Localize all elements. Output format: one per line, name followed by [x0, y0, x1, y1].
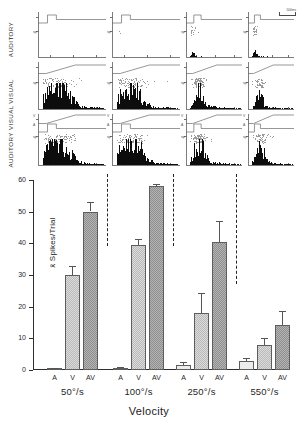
psth-panel: sp	[248, 62, 294, 110]
stimulus-trace	[112, 12, 180, 26]
spike-axis-label: sp	[107, 135, 111, 139]
bar-av-3	[275, 325, 290, 370]
trace-label: V	[243, 114, 245, 118]
bar-v-2	[194, 313, 209, 370]
stimulus-trace: A	[186, 121, 242, 135]
stimulus-trace	[186, 12, 242, 26]
bar-a-3	[239, 361, 254, 370]
error-bar	[282, 311, 283, 325]
condition-label-v: V	[194, 374, 210, 381]
spike-axis-label: sp	[181, 135, 185, 139]
spike-raster	[187, 26, 242, 36]
y-axis-tick-label: 10	[8, 334, 26, 341]
condition-label-a: A	[176, 374, 192, 381]
spike-axis-label: sp	[243, 81, 247, 85]
trace-label: A	[33, 123, 35, 127]
condition-label-av: AV	[275, 374, 291, 381]
spike-axis-label: sp	[33, 135, 37, 139]
bar-v-1	[131, 245, 146, 370]
peristimulus-time-histogram	[39, 139, 106, 165]
error-bar-cap	[69, 266, 76, 267]
y-axis-tick-label: 20	[8, 303, 26, 310]
psth-panel: sp	[112, 12, 180, 58]
bar-av-1	[149, 186, 164, 370]
error-bar-cap	[243, 358, 250, 359]
y-axis-label: x̄ Spikes/Trial	[48, 197, 57, 289]
error-bar-cap	[216, 221, 223, 222]
error-bar-cap	[51, 368, 58, 369]
multisensory-response-figure: AUDITORY VISUAL AUDITORY VISUAL 500ms sp…	[0, 0, 298, 423]
psth-panel: sp	[38, 62, 106, 110]
scale-bar-cap-right	[295, 12, 296, 16]
peristimulus-time-histogram	[187, 139, 242, 165]
trace-label: V	[181, 114, 183, 118]
y-axis-line	[33, 180, 34, 370]
peristimulus-time-histogram	[39, 41, 106, 57]
velocity-label: 250°/s	[172, 386, 232, 397]
error-bar	[72, 266, 73, 275]
stimulus-trace	[38, 12, 106, 26]
condition-label-av: AV	[83, 374, 99, 381]
error-bar	[264, 338, 265, 345]
psth-panel: sp	[186, 62, 242, 110]
psth-panel: VAsp	[248, 114, 294, 166]
trace-label: A	[181, 123, 183, 127]
peristimulus-time-histogram	[113, 139, 180, 165]
trace-label: V	[107, 114, 109, 118]
peristimulus-time-histogram	[249, 83, 294, 109]
stimulus-trace	[112, 62, 180, 76]
stimulus-trace	[248, 62, 294, 76]
peristimulus-time-histogram	[249, 41, 294, 57]
y-axis-tick-label: 40	[8, 239, 26, 246]
error-bar	[90, 202, 91, 211]
peristimulus-time-histogram	[187, 83, 242, 109]
bar-av-0	[83, 212, 98, 370]
spike-axis-label: sp	[181, 81, 185, 85]
stimulus-trace	[186, 62, 242, 76]
bar-a-2	[176, 365, 191, 370]
group-separator	[236, 174, 237, 284]
error-bar-cap	[261, 338, 268, 339]
y-axis-tick	[29, 180, 33, 181]
y-axis-tick	[29, 370, 33, 371]
bar-v-3	[257, 345, 272, 370]
row-label-auditory: AUDITORY	[7, 16, 14, 64]
error-bar-cap	[117, 367, 124, 368]
bar-v-0	[65, 275, 80, 370]
error-bar-cap	[198, 293, 205, 294]
peristimulus-time-histogram	[113, 83, 180, 109]
bar-a-1	[113, 368, 128, 370]
peristimulus-time-histogram	[187, 41, 242, 57]
psth-panel: sp	[38, 12, 106, 58]
bar-av-2	[212, 242, 227, 370]
error-bar	[201, 293, 202, 313]
peristimulus-time-histogram	[113, 41, 180, 57]
spike-raster	[249, 26, 294, 36]
trace-label: V	[33, 114, 35, 118]
condition-label-a: A	[113, 374, 129, 381]
spike-axis-label: sp	[181, 30, 185, 34]
condition-label-v: V	[131, 374, 147, 381]
y-axis-tick-label: 0	[8, 366, 26, 373]
stimulus-trace: A	[38, 121, 106, 135]
trace-label: A	[243, 123, 245, 127]
y-axis-tick-label: 50	[8, 208, 26, 215]
y-axis-tick	[29, 307, 33, 308]
error-bar	[219, 221, 220, 242]
error-bar-cap	[279, 311, 286, 312]
condition-label-av: AV	[149, 374, 165, 381]
error-bar-cap	[180, 362, 187, 363]
y-axis-tick	[29, 275, 33, 276]
psth-panel: VAsp	[186, 114, 242, 166]
psth-panel: VAsp	[112, 114, 180, 166]
velocity-label: 550°/s	[235, 386, 295, 397]
psth-panel: VAsp	[38, 114, 106, 166]
y-axis-tick-label: 30	[8, 271, 26, 278]
psth-panel-grid: AUDITORY VISUAL AUDITORY VISUAL 500ms sp…	[0, 0, 298, 172]
spike-axis-label: sp	[33, 30, 37, 34]
spike-axis-label: sp	[107, 30, 111, 34]
peristimulus-time-histogram	[249, 139, 294, 165]
stimulus-trace: A	[112, 121, 180, 135]
spike-axis-label: sp	[107, 81, 111, 85]
spike-axis-label: sp	[33, 81, 37, 85]
